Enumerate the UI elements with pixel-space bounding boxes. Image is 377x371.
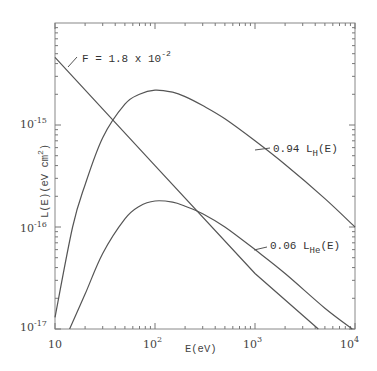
annotation-f: F = 1.8 x 10-2 [82,49,171,65]
x-tick-10: 10 [48,338,62,351]
series-group [55,57,355,329]
x-tick-100: 102 [143,335,162,351]
chart: 10 102 103 104 10-17 10-16 10-15 E(eV) L… [0,0,377,371]
y-tick-1e-16: 10-16 [20,220,47,235]
annotation-h: 0.94 LH(E) [273,143,338,159]
y-tick-1e-17: 10-17 [20,319,47,334]
f-line [55,57,318,329]
axis-ticks [55,23,355,329]
x-tick-10000: 104 [340,335,359,351]
plot-frame [55,23,355,329]
y-axis-label: L(E)(eV cm2) [36,144,51,218]
h-curve [55,90,355,317]
annotation-pointer-he [254,247,267,250]
y-tick-1e-15: 10-15 [20,116,47,131]
annotation-pointer-h [255,148,270,150]
x-tick-1000: 103 [243,335,262,351]
he-curve [70,201,353,329]
x-axis-label: E(eV) [185,343,217,355]
annotation-he: 0.06 LHe(E) [270,240,340,256]
annotation-pointer-f [68,57,77,67]
